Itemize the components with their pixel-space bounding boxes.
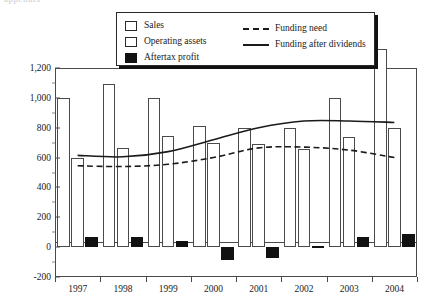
- x-axis-tick-mark: [55, 277, 56, 282]
- legend-item-funding-need: Funding need: [243, 21, 366, 36]
- legend-label-funding-after-dividends: Funding after dividends: [275, 40, 366, 50]
- y-axis-minor-tick: [52, 142, 55, 143]
- legend-label-sales: Sales: [144, 21, 164, 31]
- bar-operating-assets: [71, 158, 84, 248]
- bar-sales: [57, 98, 70, 247]
- legend-label-aftertax-profit: Aftertax profit: [144, 53, 199, 63]
- y-axis: 1,2001,0008006004002000-200: [0, 0, 51, 305]
- bar-aftertax-profit: [357, 237, 370, 247]
- x-axis-tick-mark: [281, 277, 282, 282]
- x-axis-tick-label: 2004: [385, 284, 404, 294]
- bar-sales: [148, 98, 161, 247]
- y-axis-tick-mark: [55, 68, 60, 69]
- x-axis-tick-mark: [417, 277, 418, 282]
- y-axis-tick-mark: [55, 157, 60, 158]
- bar-operating-assets: [298, 149, 311, 248]
- x-axis-tick-mark: [146, 277, 147, 282]
- y-axis-tick-mark: [55, 97, 60, 98]
- bar-sales: [193, 126, 206, 247]
- y-axis-minor-tick: [52, 172, 55, 173]
- bar-aftertax-profit: [266, 247, 279, 258]
- bar-operating-assets: [162, 136, 175, 247]
- x-axis-tick-label: 2000: [204, 284, 223, 294]
- x-axis-tick-label: 1997: [68, 284, 87, 294]
- legend-bar-column: Sales Operating assets Aftertax profit: [125, 18, 207, 66]
- legend-line-column: Funding need Funding after dividends: [243, 21, 366, 53]
- y-axis-tick-label: -200: [34, 272, 51, 282]
- x-axis-tick-label: 2001: [249, 284, 268, 294]
- legend-item-funding-after-dividends: Funding after dividends: [243, 37, 366, 52]
- x-axis-tick-mark: [100, 277, 101, 282]
- y-axis-minor-tick: [52, 262, 55, 263]
- y-axis-tick-mark: [55, 247, 60, 248]
- legend-item-operating-assets: Operating assets: [125, 34, 207, 49]
- y-axis-tick-label: 0: [46, 242, 51, 252]
- x-axis-tick-mark: [372, 277, 373, 282]
- y-axis-tick-label: 800: [37, 123, 51, 133]
- bar-aftertax-profit: [221, 247, 234, 260]
- x-axis-tick-label: 1998: [113, 284, 132, 294]
- bar-sales: [238, 128, 251, 247]
- x-axis-tick-label: 2002: [294, 284, 313, 294]
- legend-label-operating-assets: Operating assets: [144, 37, 207, 47]
- bar-aftertax-profit: [176, 241, 189, 247]
- x-axis-tick-label: 1999: [159, 284, 178, 294]
- bar-aftertax-profit: [131, 237, 144, 247]
- bar-aftertax-profit: [312, 246, 325, 248]
- negative-area-frame: [55, 242, 417, 277]
- y-axis-minor-tick: [52, 82, 55, 83]
- legend-item-sales: Sales: [125, 18, 207, 33]
- bar-operating-assets: [388, 128, 401, 247]
- y-axis-tick-mark: [55, 187, 60, 188]
- x-axis-tick-mark: [236, 277, 237, 282]
- y-axis-tick-label: 1,200: [30, 63, 51, 73]
- x-axis-tick-label: 2003: [340, 284, 359, 294]
- legend-swatch-aftertax-profit-icon: [125, 53, 137, 63]
- chart-legend: Sales Operating assets Aftertax profit F…: [116, 12, 375, 66]
- y-axis-minor-tick: [52, 112, 55, 113]
- bar-operating-assets: [207, 143, 220, 248]
- legend-dashed-line-icon: [243, 28, 269, 30]
- legend-swatch-sales-icon: [125, 21, 137, 31]
- bar-sales: [103, 84, 116, 247]
- y-axis-minor-tick: [52, 202, 55, 203]
- bar-aftertax-profit: [85, 237, 98, 247]
- x-axis-tick-mark: [191, 277, 192, 282]
- chart-figure: appendix 1,2001,0008006004002000-200 199…: [0, 0, 433, 305]
- legend-label-funding-need: Funding need: [275, 24, 327, 34]
- y-axis-tick-label: 600: [37, 153, 51, 163]
- legend-solid-line-icon: [243, 44, 269, 46]
- bar-sales: [329, 98, 342, 247]
- y-axis-tick-label: 1,000: [30, 93, 51, 103]
- y-axis-tick-mark: [55, 277, 60, 278]
- bar-sales: [284, 128, 297, 247]
- bar-aftertax-profit: [402, 234, 415, 247]
- bar-operating-assets: [252, 144, 265, 247]
- bar-sales: [374, 49, 387, 248]
- x-axis-tick-mark: [327, 277, 328, 282]
- y-axis-tick-label: 200: [37, 212, 51, 222]
- y-axis-tick-label: 400: [37, 182, 51, 192]
- bar-operating-assets: [343, 137, 356, 247]
- legend-swatch-operating-assets-icon: [125, 37, 137, 47]
- y-axis-tick-mark: [55, 127, 60, 128]
- legend-item-aftertax-profit: Aftertax profit: [125, 50, 207, 65]
- bar-operating-assets: [117, 148, 130, 247]
- y-axis-tick-mark: [55, 217, 60, 218]
- y-axis-minor-tick: [52, 232, 55, 233]
